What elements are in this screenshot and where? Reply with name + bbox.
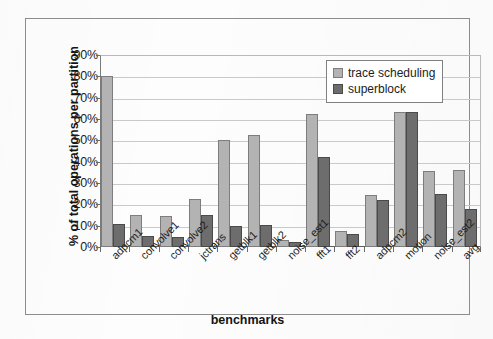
y-tick-label: 60% xyxy=(52,112,98,126)
bar-group xyxy=(100,55,129,247)
legend-item-trace-scheduling: trace scheduling xyxy=(333,65,435,81)
y-tick-label: 30% xyxy=(52,176,98,190)
legend-swatch-icon-superblock xyxy=(333,84,343,94)
y-axis-ticks: 90%80%70%60%50%40%30%20%10%0% xyxy=(48,55,98,247)
y-tick-label: 80% xyxy=(52,69,98,83)
chart-legend: trace scheduling superblock xyxy=(326,60,443,103)
bar-group xyxy=(247,55,276,247)
bar-trace-scheduling xyxy=(335,231,347,247)
bar-group xyxy=(129,55,158,247)
bar-group xyxy=(188,55,217,247)
figure-page: % of total operations per partition 90%8… xyxy=(0,0,493,339)
y-tick-label: 70% xyxy=(52,91,98,105)
y-tick-label: 10% xyxy=(52,219,98,233)
y-tick-label: 90% xyxy=(52,48,98,62)
legend-swatch-icon-trace-scheduling xyxy=(333,68,343,78)
x-tick-mark xyxy=(334,247,335,252)
x-axis-title: benchmarks xyxy=(26,313,469,327)
figure-border: % of total operations per partition 90%8… xyxy=(25,18,470,315)
y-tick-label: 50% xyxy=(52,133,98,147)
x-axis-labels: adpcm1convolve1convolve2jctransgetblk1ge… xyxy=(100,253,493,313)
bar-trace-scheduling xyxy=(365,195,377,247)
bar-group xyxy=(276,55,305,247)
bar-group xyxy=(159,55,188,247)
legend-label-superblock: superblock xyxy=(348,82,406,96)
legend-item-superblock: superblock xyxy=(333,81,435,97)
y-tick-label: 20% xyxy=(52,197,98,211)
x-tick-mark xyxy=(364,247,365,252)
legend-label-trace-scheduling: trace scheduling xyxy=(348,66,435,80)
bar-superblock xyxy=(406,112,418,247)
x-tick-mark xyxy=(100,247,101,252)
bar-group xyxy=(217,55,246,247)
y-tick-label: 0% xyxy=(52,240,98,254)
y-tick-label: 40% xyxy=(52,155,98,169)
bar-trace-scheduling xyxy=(101,76,113,247)
